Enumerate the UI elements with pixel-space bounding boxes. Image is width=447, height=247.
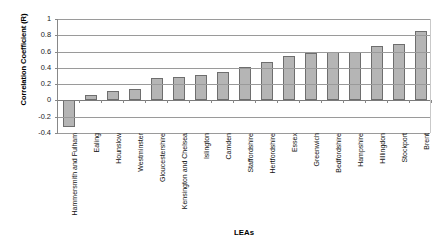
x-category-label: Hounslow xyxy=(115,133,122,164)
bar xyxy=(305,53,316,100)
x-category-label: Brent xyxy=(423,133,430,150)
x-category-label: Hammersmith and Fulham xyxy=(71,133,78,215)
y-tick-mark xyxy=(55,117,58,118)
y-tick-label: 0.2 xyxy=(25,80,51,87)
x-category-label: Bedfordshire xyxy=(335,133,342,173)
x-tick-mark xyxy=(343,100,344,103)
bar xyxy=(415,31,426,100)
x-tick-mark xyxy=(255,100,256,103)
bar xyxy=(173,77,184,101)
x-tick-mark xyxy=(387,100,388,103)
x-category-label: Westminster xyxy=(137,133,144,172)
x-tick-mark xyxy=(233,100,234,103)
y-tick-label: -0.2 xyxy=(25,113,51,120)
x-category-label: Stockport xyxy=(401,133,408,163)
bar xyxy=(393,44,404,100)
y-tick-label: 1 xyxy=(25,15,51,22)
y-tick-mark xyxy=(55,19,58,20)
gridline xyxy=(58,117,430,118)
bar xyxy=(371,46,382,101)
y-tick-mark xyxy=(55,84,58,85)
gridline xyxy=(58,52,430,53)
x-category-label: Greenwich xyxy=(313,133,320,166)
gridline xyxy=(58,84,430,85)
y-tick-mark xyxy=(55,52,58,53)
x-tick-mark xyxy=(167,100,168,103)
x-category-label: Hertfordshire xyxy=(269,133,276,173)
x-tick-mark xyxy=(299,100,300,103)
x-category-label: Camden xyxy=(225,133,232,159)
x-category-label: Ealing xyxy=(93,133,100,152)
x-category-label: Hampshire xyxy=(357,133,364,167)
bar xyxy=(63,100,74,127)
x-tick-mark xyxy=(321,100,322,103)
x-category-label: Gloucestershire xyxy=(159,133,166,182)
x-tick-mark xyxy=(189,100,190,103)
x-axis-category-labels: Hammersmith and FulhamEalingHounslowWest… xyxy=(57,133,431,218)
bar xyxy=(349,52,360,101)
x-tick-mark xyxy=(431,100,432,103)
gridline xyxy=(58,100,430,101)
y-tick-label: 0.4 xyxy=(25,64,51,71)
bar xyxy=(283,56,294,101)
x-tick-mark xyxy=(123,100,124,103)
plot-area xyxy=(57,19,431,133)
x-tick-mark xyxy=(277,100,278,103)
correlation-bar-chart: Correlation Coefficient (R) 10.80.60.40.… xyxy=(0,0,447,247)
bar xyxy=(195,75,206,100)
bar xyxy=(107,91,118,100)
x-axis-title: LEAs xyxy=(57,228,431,237)
x-tick-mark xyxy=(365,100,366,103)
x-tick-mark xyxy=(409,100,410,103)
x-category-label: Staffordshire xyxy=(247,133,254,173)
y-tick-label: -0.4 xyxy=(25,129,51,136)
x-category-label: Essex xyxy=(291,133,298,152)
bar xyxy=(129,89,140,100)
x-category-label: Hillingdon xyxy=(379,133,386,164)
gridline xyxy=(58,68,430,69)
y-tick-mark xyxy=(55,100,58,101)
y-tick-mark xyxy=(55,35,58,36)
y-tick-label: 0.8 xyxy=(25,31,51,38)
x-tick-mark xyxy=(101,100,102,103)
y-tick-mark xyxy=(55,68,58,69)
x-tick-mark xyxy=(79,100,80,103)
x-tick-mark xyxy=(211,100,212,103)
bar xyxy=(151,78,162,101)
gridline xyxy=(58,35,430,36)
x-category-label: Kensington and Chelsea xyxy=(181,133,188,209)
y-tick-label: 0 xyxy=(25,96,51,103)
x-category-label: Islington xyxy=(203,133,210,159)
bar xyxy=(217,72,228,101)
bar xyxy=(327,52,338,101)
x-tick-mark xyxy=(145,100,146,103)
y-tick-label: 0.6 xyxy=(25,48,51,55)
gridline xyxy=(58,19,430,20)
